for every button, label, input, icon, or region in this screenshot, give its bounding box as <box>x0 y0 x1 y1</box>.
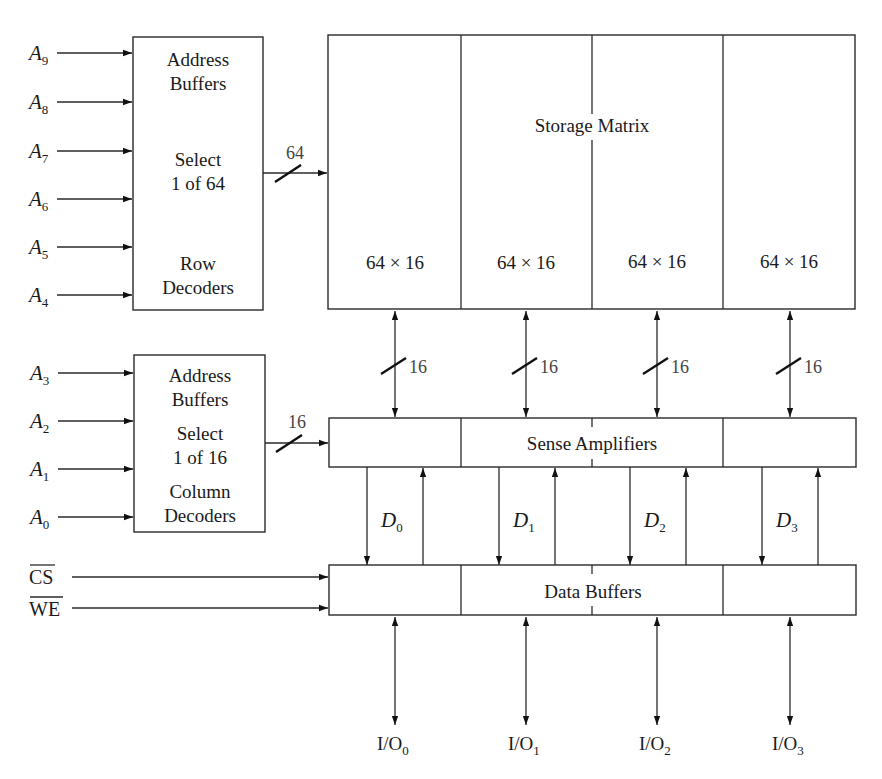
bus-width-label: 16 <box>804 357 822 377</box>
input-label: A <box>28 409 43 433</box>
svg-text:I/O2: I/O2 <box>639 733 671 758</box>
sense-amplifiers: Sense Amplifiers <box>329 418 856 467</box>
control-label: CS <box>29 566 53 588</box>
svg-text:I/O1: I/O1 <box>508 733 540 758</box>
bus-width-label: 64 <box>286 143 304 163</box>
column-address-inputs: A3 A2 A1 A0 <box>28 361 133 532</box>
input-label: A <box>27 90 42 114</box>
svg-text:A8: A8 <box>27 90 48 117</box>
data-line-subscript: 2 <box>659 520 666 535</box>
input-label: A <box>27 187 42 211</box>
input-label: A <box>27 139 42 163</box>
svg-text:D1: D1 <box>512 508 535 535</box>
io-pins: I/O0 I/O1 I/O2 I/O3 <box>377 617 804 758</box>
column-decoder-line-6: Decoders <box>164 505 236 526</box>
input-a2: A2 <box>28 409 133 436</box>
input-a5: A5 <box>27 235 132 262</box>
io-pin-subscript: 0 <box>402 743 409 758</box>
input-subscript: 7 <box>42 151 49 166</box>
row-decoder-line-1: Address <box>167 49 229 70</box>
matrix-sense-buses: 16 16 16 16 <box>381 311 822 417</box>
input-subscript: 3 <box>43 373 50 388</box>
matrix-block-0: 64 × 16 <box>366 252 424 273</box>
input-subscript: 0 <box>43 517 50 532</box>
input-label: A <box>28 361 43 385</box>
bus-width-label: 16 <box>288 412 306 432</box>
bus-slash-icon <box>381 358 406 374</box>
input-a7: A7 <box>27 139 132 166</box>
data-buffers: Data Buffers <box>329 565 856 615</box>
io-pin-1: I/O1 <box>508 617 540 758</box>
io-pin-0: I/O0 <box>377 617 409 758</box>
row-select-bus: 64 <box>263 143 327 182</box>
svg-text:A4: A4 <box>27 283 49 310</box>
bus-0: 16 <box>381 311 427 417</box>
input-label: A <box>28 505 43 529</box>
input-subscript: 2 <box>43 421 50 436</box>
input-subscript: 8 <box>42 102 49 117</box>
io-pin-subscript: 2 <box>664 743 671 758</box>
bus-1: 16 <box>512 311 558 417</box>
matrix-block-3: 64 × 16 <box>760 251 818 272</box>
input-a6: A6 <box>27 187 132 214</box>
column-decoder: Address Buffers Select 1 of 16 Column De… <box>134 355 265 532</box>
matrix-block-2: 64 × 16 <box>628 251 686 272</box>
input-label: A <box>27 41 42 65</box>
io-pin-subscript: 3 <box>797 743 804 758</box>
data-line-label: D <box>380 508 396 532</box>
bus-slash-icon <box>512 358 537 374</box>
storage-matrix: Storage Matrix 64 × 16 64 × 16 64 × 16 6… <box>328 35 855 309</box>
data-line-subscript: 0 <box>396 520 403 535</box>
chip-select-input: CS <box>29 565 328 588</box>
input-subscript: 5 <box>42 247 49 262</box>
row-decoder-line-5: Row <box>180 253 216 274</box>
data-line-label: D <box>775 508 791 532</box>
input-subscript: 1 <box>43 469 50 484</box>
svg-text:A5: A5 <box>27 235 48 262</box>
data-line-d3: D3 <box>762 467 818 565</box>
row-decoder: Address Buffers Select 1 of 64 Row Decod… <box>133 37 263 310</box>
svg-text:D2: D2 <box>643 508 666 535</box>
data-line-d0: D0 <box>367 467 423 565</box>
input-a4: A4 <box>27 283 132 310</box>
input-subscript: 9 <box>42 53 49 68</box>
svg-text:I/O3: I/O3 <box>772 733 804 758</box>
svg-text:A0: A0 <box>28 505 49 532</box>
input-label: A <box>27 283 42 307</box>
row-decoder-line-3: Select <box>175 149 222 170</box>
input-a1: A1 <box>28 457 133 484</box>
svg-text:A6: A6 <box>27 187 49 214</box>
control-label: WE <box>29 598 60 620</box>
input-subscript: 6 <box>42 199 49 214</box>
input-subscript: 4 <box>42 295 49 310</box>
bus-width-label: 16 <box>540 357 558 377</box>
bus-2: 16 <box>643 311 689 417</box>
io-pin-3: I/O3 <box>772 617 804 758</box>
input-a3: A3 <box>28 361 133 388</box>
io-pin-2: I/O2 <box>639 617 671 758</box>
svg-text:A3: A3 <box>28 361 49 388</box>
memory-block-diagram: Address Buffers Select 1 of 64 Row Decod… <box>0 0 882 779</box>
bus-width-label: 16 <box>409 357 427 377</box>
row-decoder-line-4: 1 of 64 <box>171 173 225 194</box>
row-decoder-line-2: Buffers <box>170 73 227 94</box>
input-label: A <box>28 457 43 481</box>
data-line-label: D <box>643 508 659 532</box>
io-pin-label: I/O <box>639 733 664 754</box>
bus-slash-icon <box>643 358 668 374</box>
svg-text:A7: A7 <box>27 139 49 166</box>
input-a8: A8 <box>27 90 132 117</box>
control-inputs: CS WE <box>29 565 328 620</box>
column-decoder-line-2: Buffers <box>172 389 229 410</box>
column-decoder-line-5: Column <box>169 481 231 502</box>
bus-width-label: 16 <box>671 357 689 377</box>
svg-text:A2: A2 <box>28 409 49 436</box>
column-decoder-line-3: Select <box>177 423 224 444</box>
data-line-subscript: 3 <box>791 520 798 535</box>
data-line-d2: D2 <box>630 467 686 565</box>
row-decoder-line-6: Decoders <box>162 277 234 298</box>
svg-text:A1: A1 <box>28 457 49 484</box>
storage-matrix-title: Storage Matrix <box>535 115 650 136</box>
column-select-bus: 16 <box>265 412 328 452</box>
data-line-d1: D1 <box>499 467 555 565</box>
